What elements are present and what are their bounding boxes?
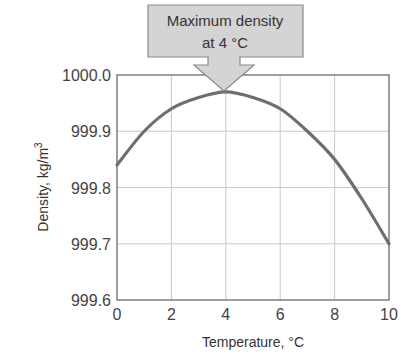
x-tick-label: 10 — [380, 306, 398, 323]
y-axis-label-superscript: 3 — [33, 142, 44, 148]
x-tick-label: 4 — [221, 306, 230, 323]
y-axis-label-text: Density, kg/m — [35, 148, 51, 232]
callout-line-2: at 4 °C — [202, 34, 248, 51]
x-tick-label: 0 — [113, 306, 122, 323]
y-tick-labels: 999.6999.7999.8999.91000.0 — [62, 67, 111, 309]
y-tick-label: 1000.0 — [62, 67, 111, 84]
density-chart: 999.6999.7999.8999.91000.0 0246810 Tempe… — [0, 0, 401, 359]
y-tick-label: 999.9 — [71, 123, 111, 140]
x-tick-labels: 0246810 — [113, 306, 398, 323]
x-axis-label: Temperature, °C — [202, 334, 304, 350]
callout-line-1: Maximum density — [167, 12, 284, 29]
y-tick-label: 999.6 — [71, 292, 111, 309]
x-tick-label: 6 — [276, 306, 285, 323]
x-tick-label: 2 — [167, 306, 176, 323]
y-axis-label: Density, kg/m3 — [33, 142, 51, 232]
y-tick-label: 999.8 — [71, 180, 111, 197]
y-tick-label: 999.7 — [71, 236, 111, 253]
x-tick-label: 8 — [330, 306, 339, 323]
density-curve — [117, 92, 389, 244]
grid-lines — [117, 75, 389, 300]
